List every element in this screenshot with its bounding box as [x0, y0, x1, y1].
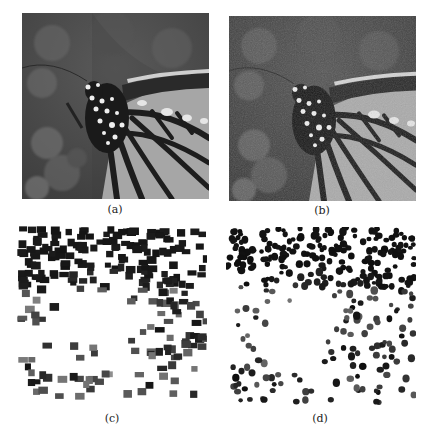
block-pattern-image: [17, 226, 207, 404]
block-pattern: [17, 226, 207, 404]
caption-c: (c): [82, 412, 142, 425]
butterfly-noisy-image: [229, 16, 416, 201]
butterfly-original-image: [22, 13, 209, 199]
caption-a: (a): [85, 203, 145, 216]
butterfly-photo: [22, 13, 209, 199]
caption-b: (b): [292, 204, 352, 217]
caption-d: (d): [290, 412, 350, 425]
dot-pattern: [226, 227, 416, 405]
butterfly-noisy-photo: [229, 16, 416, 201]
dot-pattern-image: [226, 227, 416, 405]
